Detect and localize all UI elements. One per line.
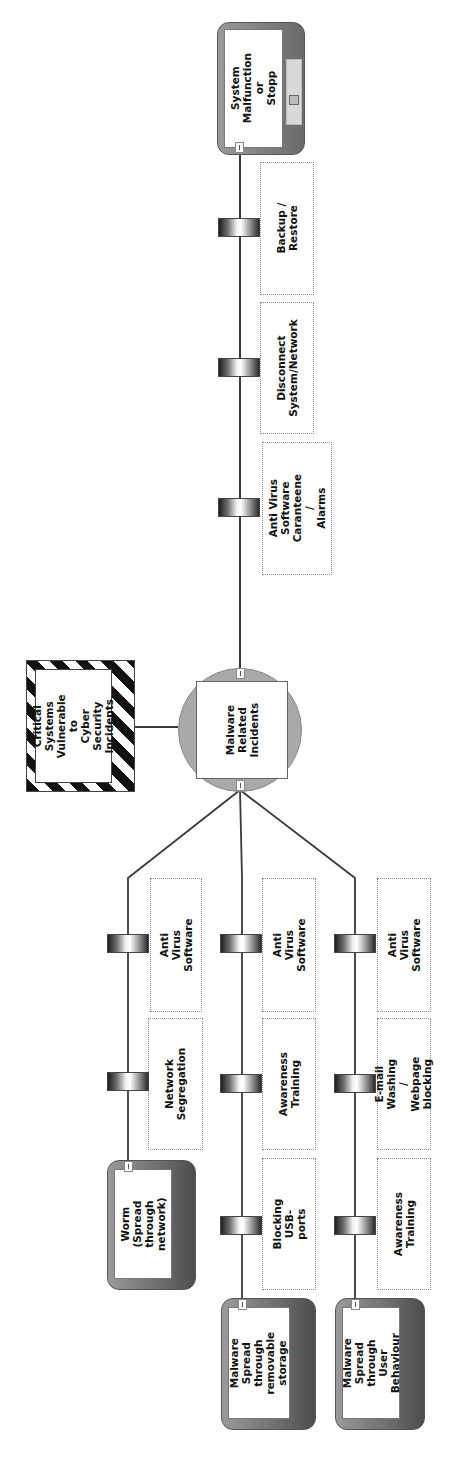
barrier-antivirus-software[interactable]: Anti Virus Software (262, 878, 316, 1012)
barrier-knob-icon (107, 1072, 149, 1091)
threat-port (351, 1299, 360, 1310)
barrier-awareness-training[interactable]: Awareness Training (262, 1018, 316, 1150)
threat-worm[interactable]: Worm (Spread through network) (107, 1160, 196, 1290)
threat-removable-storage[interactable]: Malware Spread through removable storage (221, 1298, 316, 1430)
hazard-box[interactable]: Critical Systems Vulnerable to Cyber Sec… (26, 660, 135, 792)
threat-port (238, 1299, 247, 1310)
threat-port (124, 1161, 133, 1172)
barrier-knob-icon (218, 218, 260, 237)
barrier-knob-icon (334, 1216, 376, 1235)
top-event[interactable]: Malware Related Incidents (178, 668, 302, 792)
barrier-knob-icon (220, 1216, 262, 1235)
barrier-knob-icon (218, 358, 260, 377)
barrier-antivirus-quarantine[interactable]: Anti Virus Software Caranteene / Alarms (262, 442, 332, 575)
barrier-backup-restore[interactable]: Backup / Restore (260, 162, 314, 295)
top-event-port-bottom (236, 780, 245, 791)
consequence-box[interactable]: System Malfunction or Stopp (217, 22, 305, 155)
barrier-knob-icon (334, 1074, 376, 1093)
barrier-knob-icon (334, 934, 376, 953)
barrier-disconnect-system[interactable]: Disconnect System/Network (260, 302, 314, 434)
threat-user-behaviour[interactable]: Malware Spread through User Behaviour (335, 1298, 425, 1430)
hazard-label: Critical Systems Vulnerable to Cyber Sec… (31, 689, 115, 764)
barrier-knob-icon (220, 934, 262, 953)
barrier-email-washing[interactable]: E-mail Washing / Webpage blocking (377, 1018, 431, 1150)
consequence-status-strip (286, 59, 302, 125)
barrier-network-segregation[interactable]: Network Segregation (148, 1018, 203, 1150)
top-event-port-top (236, 668, 245, 679)
top-event-label: Malware Related Incidents (224, 703, 260, 758)
consequence-flag-icon (289, 95, 299, 105)
barrier-blocking-usb[interactable]: Blocking USB- ports (262, 1158, 316, 1290)
consequence-label: System Malfunction or Stopp (229, 53, 277, 123)
barrier-antivirus-software[interactable]: Anti Virus Software (377, 878, 431, 1012)
barrier-knob-icon (218, 498, 260, 517)
barrier-knob-icon (107, 934, 149, 953)
barrier-antivirus-software[interactable]: Anti Virus Software (150, 878, 202, 1012)
barrier-awareness-training[interactable]: Awareness Training (377, 1158, 431, 1290)
consequence-port (235, 142, 244, 153)
barrier-knob-icon (220, 1074, 262, 1093)
